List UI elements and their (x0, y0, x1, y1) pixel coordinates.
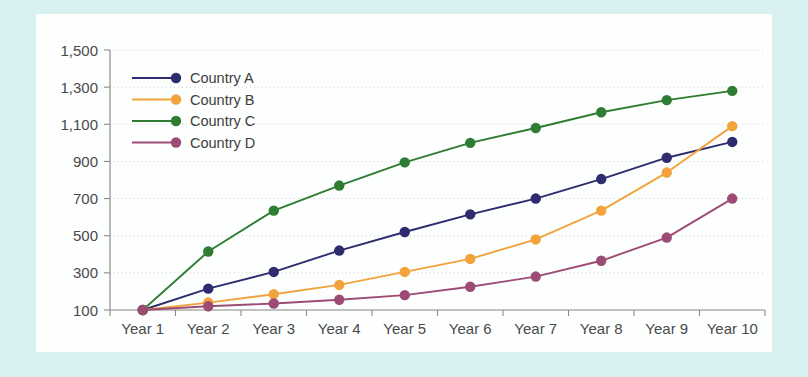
x-axis-tick-label: Year 7 (514, 320, 557, 337)
data-point (465, 254, 475, 264)
y-axis-tick-label: 1,300 (60, 79, 98, 96)
data-point (596, 205, 606, 215)
data-point (334, 280, 344, 290)
legend-marker (171, 73, 181, 83)
data-point (465, 282, 475, 292)
data-point (400, 157, 410, 167)
data-point (203, 283, 213, 293)
y-axis-tick-label: 300 (73, 264, 98, 281)
data-point (203, 246, 213, 256)
x-axis-tick-label: Year 10 (707, 320, 758, 337)
data-point (269, 289, 279, 299)
chart-canvas: 1003005007009001,1001,3001,500Year 1Year… (36, 14, 772, 352)
data-point (465, 138, 475, 148)
y-axis-tick-label: 900 (73, 153, 98, 170)
x-axis-tick-label: Year 3 (252, 320, 295, 337)
legend-label: Country C (190, 113, 255, 129)
legend-marker (171, 94, 181, 104)
data-point (465, 209, 475, 219)
data-point (203, 301, 213, 311)
data-point (400, 267, 410, 277)
legend-marker (171, 137, 181, 147)
x-axis-tick-label: Year 6 (449, 320, 492, 337)
legend-label: Country D (190, 135, 255, 151)
legend-label: Country A (190, 70, 254, 86)
y-axis-tick-label: 1,500 (60, 42, 98, 59)
data-point (400, 227, 410, 237)
x-axis-tick-label: Year 8 (580, 320, 623, 337)
data-point (727, 86, 737, 96)
y-axis-tick-label: 500 (73, 227, 98, 244)
data-point (334, 295, 344, 305)
data-point (596, 256, 606, 266)
data-point (662, 95, 672, 105)
data-point (596, 174, 606, 184)
data-point (531, 193, 541, 203)
x-axis-tick-label: Year 4 (318, 320, 361, 337)
y-axis-tick-label: 1,100 (60, 116, 98, 133)
data-point (138, 305, 148, 315)
data-point (531, 234, 541, 244)
x-axis-tick-label: Year 5 (383, 320, 426, 337)
line-chart: 1003005007009001,1001,3001,500Year 1Year… (36, 14, 772, 352)
y-axis-tick-label: 700 (73, 190, 98, 207)
data-point (531, 123, 541, 133)
series-line-country-a (143, 142, 733, 310)
x-axis-tick-label: Year 2 (187, 320, 230, 337)
chart-panel: 1003005007009001,1001,3001,500Year 1Year… (36, 14, 772, 352)
data-point (269, 205, 279, 215)
data-point (727, 193, 737, 203)
data-point (662, 167, 672, 177)
chart-screenshot: 1003005007009001,1001,3001,500Year 1Year… (0, 0, 808, 377)
data-point (531, 271, 541, 281)
data-point (662, 153, 672, 163)
data-point (269, 298, 279, 308)
y-axis-tick-label: 100 (73, 302, 98, 319)
data-point (334, 245, 344, 255)
data-point (400, 290, 410, 300)
data-point (727, 121, 737, 131)
data-point (727, 137, 737, 147)
legend-label: Country B (190, 92, 254, 108)
data-point (269, 267, 279, 277)
legend-marker (171, 116, 181, 126)
data-point (334, 180, 344, 190)
series-line-country-d (143, 199, 733, 310)
x-axis-tick-label: Year 1 (121, 320, 164, 337)
data-point (596, 107, 606, 117)
x-axis-tick-label: Year 9 (645, 320, 688, 337)
data-point (662, 232, 672, 242)
